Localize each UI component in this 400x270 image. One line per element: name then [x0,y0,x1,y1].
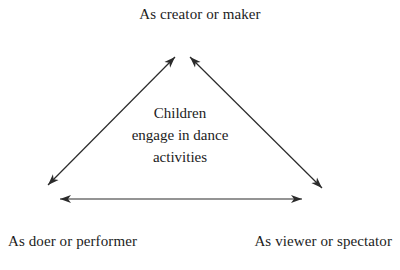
vertex-label-spectator: As viewer or spectator [254,233,392,250]
center-caption-line3: activities [70,146,290,168]
center-caption: Children engage in dance activities [70,102,290,168]
center-caption-line2: engage in dance [70,124,290,146]
center-caption-line1: Children [70,102,290,124]
dance-roles-triangle-diagram: As creator or maker Children engage in d… [0,0,400,270]
vertex-label-performer: As doer or performer [8,233,137,250]
